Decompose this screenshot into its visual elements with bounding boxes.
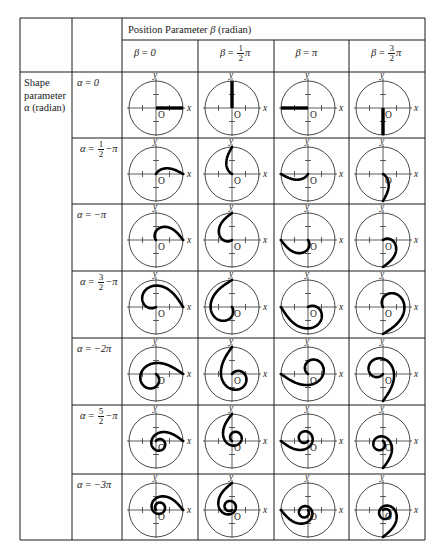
spiral-curve <box>281 360 324 386</box>
spiral-plot <box>354 277 412 335</box>
y-axis-label: y <box>229 268 233 280</box>
origin-label: O <box>158 375 165 387</box>
x-axis-label: x <box>187 168 191 180</box>
x-axis-label: x <box>339 234 343 246</box>
y-axis-label: y <box>153 135 157 147</box>
table-grid <box>0 0 444 560</box>
spiral-curve <box>142 286 183 309</box>
spiral-plot <box>279 144 337 202</box>
origin-label: O <box>385 241 392 253</box>
origin-label: O <box>385 511 392 523</box>
row-header-alpha-2: α = −π <box>77 209 106 221</box>
spiral-plot <box>279 277 337 335</box>
header-line-2: parameter <box>24 90 66 103</box>
y-axis-label: y <box>305 335 309 347</box>
x-axis-label: x <box>187 301 191 313</box>
spiral-plot <box>127 480 185 538</box>
spiral-plot <box>354 78 412 136</box>
y-axis-label: y <box>153 402 157 414</box>
x-axis-label: x <box>414 301 418 313</box>
shape-parameter-header: Shape parameter α (radian) <box>24 77 66 115</box>
x-axis-label: x <box>339 301 343 313</box>
y-axis-label: y <box>153 69 157 81</box>
header-label: Position Parameter <box>128 24 210 35</box>
spiral-plot <box>203 411 261 469</box>
y-axis-label: y <box>305 471 309 483</box>
column-header-beta-0: β = 0 <box>134 47 156 59</box>
spiral-plot <box>354 144 412 202</box>
column-header-beta-2: β = π <box>296 47 318 59</box>
x-axis-label: x <box>263 368 267 380</box>
spiral-plot <box>203 210 261 268</box>
origin-label: O <box>310 442 317 454</box>
origin-label: O <box>234 511 241 523</box>
x-axis-label: x <box>187 234 191 246</box>
header-line-1: Shape <box>24 77 66 90</box>
origin-label: O <box>158 241 165 253</box>
spiral-plot <box>203 78 261 136</box>
x-axis-label: x <box>414 234 418 246</box>
y-axis-label: y <box>153 335 157 347</box>
x-axis-label: x <box>187 368 191 380</box>
spiral-plot <box>279 210 337 268</box>
origin-label: O <box>234 175 241 187</box>
y-axis-label: y <box>229 471 233 483</box>
spiral-curve <box>219 213 232 241</box>
spiral-plot <box>203 144 261 202</box>
origin-label: O <box>385 375 392 387</box>
y-axis-label: y <box>380 335 384 347</box>
x-axis-label: x <box>414 504 418 516</box>
y-axis-label: y <box>305 402 309 414</box>
y-axis-label: y <box>380 135 384 147</box>
row-header-alpha-0: α = 0 <box>77 77 99 89</box>
origin-label: O <box>234 308 241 320</box>
spiral-plot <box>354 344 412 402</box>
spiral-plot <box>279 78 337 136</box>
spiral-plot <box>203 277 261 335</box>
x-axis-label: x <box>339 504 343 516</box>
origin-label: O <box>158 511 165 523</box>
origin-label: O <box>234 375 241 387</box>
y-axis-label: y <box>153 268 157 280</box>
x-axis-label: x <box>263 435 267 447</box>
row-header-alpha-5: α = 52−π <box>80 407 118 426</box>
origin-label: O <box>158 175 165 187</box>
x-axis-label: x <box>339 435 343 447</box>
y-axis-label: y <box>153 471 157 483</box>
spiral-plot <box>127 344 185 402</box>
y-axis-label: y <box>380 69 384 81</box>
row-header-alpha-4: α = −2π <box>77 343 111 355</box>
row-header-alpha-6: α = −3π <box>77 479 111 491</box>
x-axis-label: x <box>339 102 343 114</box>
x-axis-label: x <box>414 435 418 447</box>
y-axis-label: y <box>380 268 384 280</box>
x-axis-label: x <box>263 168 267 180</box>
spiral-plot <box>127 411 185 469</box>
spiral-curve <box>281 506 312 524</box>
y-axis-label: y <box>229 135 233 147</box>
spiral-curve <box>155 227 183 240</box>
origin-label: O <box>310 375 317 387</box>
x-axis-label: x <box>263 102 267 114</box>
origin-label: O <box>310 308 317 320</box>
y-axis-label: y <box>305 268 309 280</box>
spiral-plot <box>127 277 185 335</box>
y-axis-label: y <box>380 201 384 213</box>
x-axis-label: x <box>263 301 267 313</box>
origin-label: O <box>385 442 392 454</box>
origin-label: O <box>158 109 165 121</box>
spiral-plot <box>279 411 337 469</box>
row-header-alpha-1: α = 12−π <box>80 140 118 159</box>
x-axis-label: x <box>187 102 191 114</box>
spiral-plot <box>279 344 337 402</box>
y-axis-label: y <box>229 335 233 347</box>
spiral-plot <box>354 411 412 469</box>
x-axis-label: x <box>263 234 267 246</box>
spiral-plot <box>127 78 185 136</box>
y-axis-label: y <box>153 201 157 213</box>
spiral-plot <box>354 210 412 268</box>
origin-label: O <box>158 442 165 454</box>
x-axis-label: x <box>187 435 191 447</box>
column-header-beta-3: β = 32π <box>371 44 401 63</box>
y-axis-label: y <box>380 471 384 483</box>
